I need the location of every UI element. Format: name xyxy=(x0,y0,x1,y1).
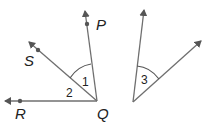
label-P: P xyxy=(96,16,106,33)
point-R-dot xyxy=(18,99,22,103)
point-S-dot xyxy=(36,48,40,52)
angle-diagram: P S R Q 1 2 3 xyxy=(0,0,208,122)
point-P-dot xyxy=(85,22,89,26)
label-R: R xyxy=(15,105,26,122)
ray-3-left xyxy=(133,10,144,102)
angle-2-label: 2 xyxy=(66,86,73,100)
ray-3-right xyxy=(133,41,201,102)
diagram-svg: P S R Q 1 2 3 xyxy=(0,0,208,122)
label-S: S xyxy=(24,52,34,69)
angle-1-label: 1 xyxy=(82,75,89,89)
label-Q: Q xyxy=(97,105,109,122)
angle-3-label: 3 xyxy=(141,73,148,87)
